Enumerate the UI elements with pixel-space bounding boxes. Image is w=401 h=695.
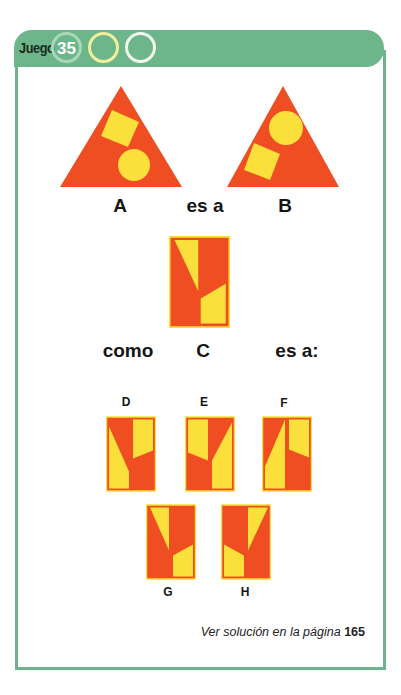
connector-es-a: es a	[180, 195, 230, 217]
label-h[interactable]: H	[237, 585, 253, 599]
label-c: C	[193, 340, 213, 362]
label-e[interactable]: E	[196, 395, 212, 409]
empty-circle-yellow	[88, 32, 119, 63]
figure-a-triangle	[60, 86, 182, 188]
figure-c-rect	[169, 234, 230, 330]
figure-b-triangle	[227, 86, 339, 188]
option-h[interactable]	[221, 503, 271, 581]
label-b: B	[273, 195, 297, 217]
label-d[interactable]: D	[118, 395, 134, 409]
label-g[interactable]: G	[160, 585, 176, 599]
solution-reference: Ver solución en la página 165	[150, 625, 365, 639]
label-como: como	[98, 340, 158, 362]
empty-circle-white	[125, 32, 156, 63]
game-number-circle: 35	[51, 32, 82, 63]
connector-es-a-colon: es a:	[262, 340, 332, 362]
game-number: 35	[54, 39, 79, 59]
option-e[interactable]	[185, 415, 235, 493]
option-f[interactable]	[262, 415, 312, 493]
label-a: A	[108, 195, 132, 217]
option-g[interactable]	[146, 503, 196, 581]
game-title: Juego	[19, 39, 54, 56]
label-f[interactable]: F	[276, 396, 292, 410]
solution-page: 165	[344, 625, 365, 639]
solution-text: Ver solución en la página	[201, 625, 341, 639]
header-bar: Juego 35	[14, 30, 384, 67]
option-d[interactable]	[106, 415, 156, 493]
